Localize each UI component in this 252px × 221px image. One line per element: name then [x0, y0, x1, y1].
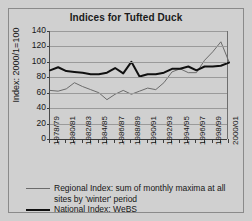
legend-label-regional-line2: sites by 'winter' period [54, 194, 137, 204]
x-axis-tick [130, 139, 131, 143]
x-tick-label: 1992/93 [166, 116, 174, 145]
legend-label-regional-line2-wrap: sites by 'winter' period [26, 194, 238, 205]
legend-label-regional-line1: Regional Index: sum of monthly maxima at… [54, 183, 226, 193]
y-tick-label: 80 [24, 72, 46, 81]
x-axis-tick [98, 139, 99, 143]
x-tick-label: 1984/85 [101, 116, 109, 145]
x-axis-tick [65, 139, 66, 143]
x-axis-tick [228, 139, 229, 143]
gridline [50, 77, 227, 78]
legend-item-national: National Index: WeBS [26, 204, 238, 215]
x-axis-tick [179, 139, 180, 143]
x-tick-label: 1996/97 [199, 116, 207, 145]
x-axis-tick [147, 139, 148, 143]
x-tick-label: 1994/95 [183, 116, 191, 145]
x-tick-label: 1978/79 [53, 116, 61, 145]
x-axis-tick [114, 139, 115, 143]
x-tick-label: 1998/99 [215, 116, 223, 145]
x-axis-tick-labels: 1978/791980/811982/831984/851986/871988/… [49, 145, 228, 179]
x-tick-label: 1980/81 [69, 116, 77, 145]
x-axis-tick [163, 139, 164, 143]
x-axis-tick [195, 139, 196, 143]
y-tick-label: 60 [24, 88, 46, 97]
chart-legend: Regional Index: sum of monthly maxima at… [26, 183, 238, 215]
gridline [50, 108, 227, 109]
series-line-regional [50, 42, 229, 100]
gridline [50, 62, 227, 63]
legend-line-regional-icon [26, 188, 50, 189]
y-tick-label: 20 [24, 119, 46, 128]
y-tick-label: 140 [24, 26, 46, 35]
x-tick-label: 1988/89 [134, 116, 142, 145]
x-axis-tick [212, 139, 213, 143]
gridline [50, 93, 227, 94]
legend-line-national-icon [26, 209, 50, 211]
x-tick-label: 2000/01 [232, 116, 240, 145]
chart-container: Indices for Tufted Duck Index: 2000/1=10… [0, 0, 252, 221]
y-tick-label: 100 [24, 57, 46, 66]
x-tick-label: 1986/87 [118, 116, 126, 145]
y-axis-label: Index: 2000/1=100 [11, 10, 21, 120]
y-tick-label: 120 [24, 41, 46, 50]
y-tick-label: 40 [24, 103, 46, 112]
gridline [50, 46, 227, 47]
x-tick-label: 1990/91 [150, 116, 158, 145]
x-tick-label: 1982/83 [85, 116, 93, 145]
x-axis-tick [82, 139, 83, 143]
legend-label-national: National Index: WeBS [54, 204, 137, 214]
x-axis-tick [49, 139, 50, 143]
legend-item-regional: Regional Index: sum of monthly maxima at… [26, 183, 238, 194]
y-tick-label: 0 [24, 134, 46, 143]
gridline [50, 31, 227, 32]
